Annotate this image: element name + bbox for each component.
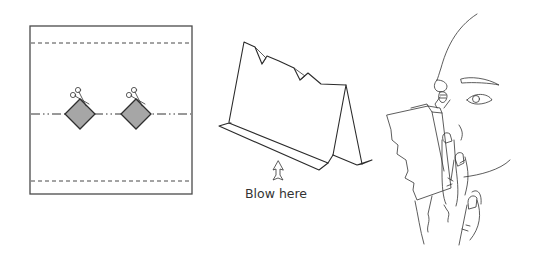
palm (415, 196, 432, 244)
blow-here-caption: Blow here (245, 186, 307, 201)
tent-front-top-edge (229, 42, 346, 122)
chin-contour (459, 125, 462, 140)
step-1-paper-panel (30, 26, 192, 194)
nose (434, 80, 447, 92)
jaw-line (464, 160, 510, 177)
fingernail (455, 153, 464, 166)
up-arrow-icon (273, 161, 283, 180)
fingernail (468, 196, 477, 209)
index-finger (442, 140, 458, 206)
folded-paper-edges (411, 104, 444, 171)
instruction-diagram (0, 0, 536, 258)
middle-finger (451, 157, 468, 195)
paper-sheet (30, 26, 192, 194)
ring-finger (459, 200, 480, 245)
folded-paper (387, 106, 451, 200)
forehead-profile (437, 14, 477, 80)
tent-back-edges (333, 85, 362, 164)
iris (473, 96, 480, 103)
step-2-paper-tent-panel (219, 42, 372, 180)
tent-base-flap-front (219, 123, 328, 170)
eyebrow (461, 78, 499, 85)
tent-base-flap-back (333, 155, 372, 165)
fingernail (443, 133, 452, 143)
step-3-blowing-panel (387, 14, 510, 245)
